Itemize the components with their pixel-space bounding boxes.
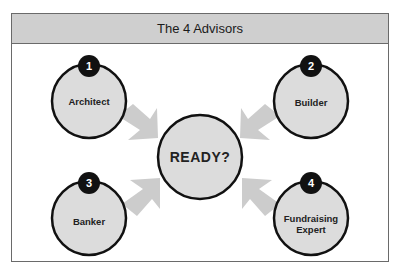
advisor-4-badge: 4 — [300, 172, 322, 194]
advisor-4-label: Fundraising Expert — [276, 213, 346, 235]
advisor-2-badge: 2 — [300, 55, 322, 77]
advisor-3-label: Banker — [73, 216, 105, 227]
advisor-2-label: Builder — [295, 97, 328, 108]
center-label: READY? — [170, 152, 231, 163]
advisor-3-badge: 3 — [78, 172, 100, 194]
arrow-3-icon — [122, 178, 160, 216]
advisor-1-badge: 1 — [78, 55, 100, 77]
advisor-1-label: Architect — [68, 96, 109, 107]
